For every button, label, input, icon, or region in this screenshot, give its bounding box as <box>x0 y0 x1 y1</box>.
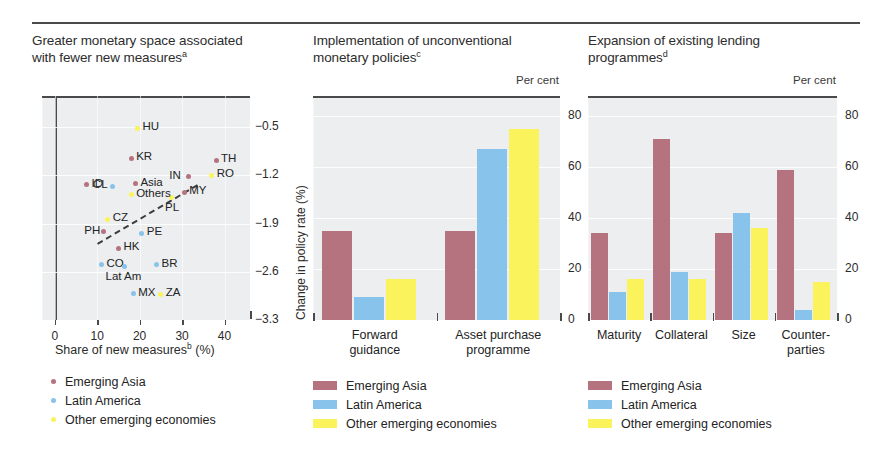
bar-y-tick-label: 20 <box>845 261 858 275</box>
bar-y-tick-label: 40 <box>568 210 581 224</box>
legend-item-latin-america-right: Latin America <box>588 395 772 414</box>
scatter-x-tickmark <box>225 320 227 325</box>
bar-maturity-emerging-asia <box>591 233 608 320</box>
bar-y-tick-label: 20 <box>568 261 581 275</box>
scatter-point-label-kr: KR <box>136 150 152 162</box>
scatter-point-label-cz: CZ <box>113 211 128 223</box>
figure-sheet: Greater monetary space associated with f… <box>0 0 886 460</box>
legend-dot-emerging-asia <box>51 379 56 384</box>
scatter-point-th <box>214 158 219 163</box>
bar-size-emerging-asia <box>715 233 732 320</box>
legend-item-other-emerging-mid: Other emerging economies <box>313 414 497 433</box>
bar-group-tickmark <box>588 313 590 321</box>
panel-right-title-footnote: d <box>663 49 668 59</box>
scatter-point-label-hu: HU <box>143 120 160 132</box>
scatter-point-others <box>129 192 134 197</box>
bar-y-tick-label: 0 <box>845 312 852 326</box>
legend-label-latin-america-mid: Latin America <box>346 398 422 412</box>
scatter-y-tick-label: −0.5 <box>255 119 279 133</box>
panel-left-title: Greater monetary space associated with f… <box>32 32 294 66</box>
scatter-x-axis-title: Share of new measuresb (%) <box>55 343 215 357</box>
bar-maturity-other-emerging-economies <box>627 279 644 320</box>
scatter-point-label-pe: PE <box>147 225 162 237</box>
panel-middle-title-line2: monetary policies <box>313 50 416 65</box>
scatter-point-pe <box>139 231 144 236</box>
bar-counter-parties-latin-america <box>795 310 812 320</box>
legend-swatch-other-emerging-right <box>588 419 612 428</box>
scatter-point-label-th: TH <box>221 152 236 164</box>
bar-group-tickmark <box>650 313 652 321</box>
legend-middle: Emerging Asia Latin America Other emergi… <box>313 376 497 433</box>
legend-swatch-latin-america-right <box>588 400 612 409</box>
panel-middle-title-line1: Implementation of unconventional <box>313 33 512 48</box>
panel-middle-title-footnote: c <box>416 49 420 59</box>
right-top-axis <box>588 96 837 98</box>
panel-right-title-line2: programmes <box>588 50 663 65</box>
bar-axis-end-tickmark <box>837 313 839 321</box>
panel-middle: Implementation of unconventional monetar… <box>313 32 583 66</box>
legend-label-latin-america: Latin America <box>65 394 141 408</box>
scatter-x-tick-label: 40 <box>211 329 239 343</box>
scatter-gridline <box>42 320 250 321</box>
legend-label-other-emerging-right: Other emerging economies <box>621 417 772 431</box>
legend-item-emerging-asia-right: Emerging Asia <box>588 376 772 395</box>
scatter-point-label-my: MY <box>189 184 206 196</box>
bar-asset-purchase-programme-latin-america <box>477 149 507 320</box>
panel-middle-unit: Per cent <box>516 74 559 86</box>
scatter-x-axis-title-unit: (%) <box>195 343 214 357</box>
scatter-point-hk <box>116 246 121 251</box>
bar-forward-guidance-latin-america <box>354 297 384 320</box>
bar-counter-parties-other-emerging-economies <box>813 282 830 320</box>
panel-left-title-line2: with fewer new measures <box>32 50 182 65</box>
bar-counter-parties-emerging-asia <box>777 170 794 320</box>
legend-label-latin-america-right: Latin America <box>621 398 697 412</box>
scatter-x-axis-title-text: Share of new measures <box>55 343 187 357</box>
scatter-y-tick-label: −2.6 <box>255 264 279 278</box>
bar-gridline <box>588 116 837 117</box>
bar-category-label: Counter-parties <box>766 328 846 358</box>
scatter-x-tickmark-end <box>250 311 252 319</box>
scatter-point-label-pl: PL <box>165 201 179 213</box>
bar-category-label-line: Counter- <box>766 328 846 343</box>
bar-category-label: Asset purchaseprogramme <box>428 328 570 358</box>
bar-category-label-line: Asset purchase <box>428 328 570 343</box>
bar-group-tickmark <box>313 313 315 321</box>
legend-left: Emerging Asia Latin America Other emergi… <box>48 372 216 429</box>
legend-item-emerging-asia: Emerging Asia <box>48 372 216 391</box>
legend-dot-other-emerging <box>51 417 56 422</box>
scatter-y-tick-label: −3.3 <box>255 312 279 326</box>
right-bar-plot-area <box>588 96 837 320</box>
legend-dot-latin-america <box>51 398 56 403</box>
bar-category-label-line: parties <box>766 343 846 358</box>
bar-category-label-line: guidance <box>304 343 446 358</box>
bar-y-tick-label: 60 <box>568 159 581 173</box>
scatter-point-hu <box>135 126 140 131</box>
scatter-point-label-ro: RO <box>217 167 234 179</box>
bar-forward-guidance-emerging-asia <box>322 231 352 320</box>
scatter-point-label-co: CO <box>106 257 123 269</box>
scatter-x-tick-label: 0 <box>41 329 69 343</box>
scatter-y-tick-label: −1.9 <box>255 216 279 230</box>
scatter-gridline-vertical <box>55 96 56 320</box>
scatter-gridline-vertical <box>97 96 98 320</box>
legend-swatch-emerging-asia-right <box>588 381 612 390</box>
bar-y-tick-label: 40 <box>845 210 858 224</box>
bar-category-label-line: Forward <box>304 328 446 343</box>
legend-label-emerging-asia-right: Emerging Asia <box>621 379 702 393</box>
scatter-point-my <box>182 190 187 195</box>
bar-maturity-latin-america <box>609 292 626 320</box>
bar-y-tick-label: 80 <box>845 108 858 122</box>
legend-right: Emerging Asia Latin America Other emergi… <box>588 376 772 433</box>
bar-gridline <box>313 116 560 117</box>
scatter-x-tick-label: 20 <box>126 329 154 343</box>
scatter-point-label-others: Others <box>136 187 171 199</box>
bar-group-tickmark <box>775 313 777 321</box>
scatter-top-axis <box>42 96 250 98</box>
legend-label-other-emerging: Other emerging economies <box>65 413 216 427</box>
legend-label-emerging-asia: Emerging Asia <box>65 375 146 389</box>
scatter-x-axis-title-footnote: b <box>187 341 192 351</box>
bar-size-latin-america <box>733 213 750 320</box>
legend-item-emerging-asia-mid: Emerging Asia <box>313 376 497 395</box>
legend-swatch-latin-america-mid <box>313 400 337 409</box>
bar-gridline <box>588 218 837 219</box>
